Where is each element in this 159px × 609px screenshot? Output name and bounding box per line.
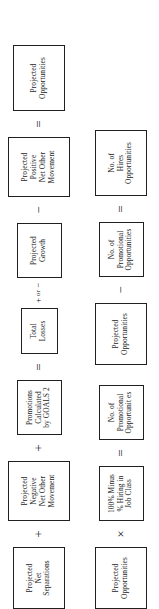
flow-row-projected-opportunities: Projected Net Separations+Projected Nega… xyxy=(2,0,76,609)
projected-positive-net-other-movement-label: Projected Positive Net Other Movement xyxy=(21,151,57,184)
operator-equals: = xyxy=(24,111,54,137)
projected-positive-net-other-movement: Projected Positive Net Other Movement xyxy=(8,137,70,197)
projected-growth: Projected Growth xyxy=(17,223,62,278)
percent-minus-hiring-in-job-class-label: 100% Minus % Hiring in Job Class xyxy=(108,474,135,513)
operator-equals: = xyxy=(106,440,136,466)
projected-growth-label: Projected Growth xyxy=(30,236,48,265)
promotions-calculated-by-goals-2-label: Promotions Calculated by GOALS 2 xyxy=(26,387,53,427)
operator-minus: − xyxy=(24,197,54,223)
projected-net-separations: Projected Net Separations xyxy=(13,547,65,609)
operator-or-label: or xyxy=(35,290,42,296)
operator-multiply: × xyxy=(106,521,136,547)
projected-negative-net-other-movement-label: Projected Negative Net Other Movement xyxy=(21,475,57,508)
flow-diagram: Projected Net Separations+Projected Nega… xyxy=(0,0,159,609)
projected-opportunities-result-label: Projected Opportunities xyxy=(30,57,48,99)
operator-equals: = xyxy=(24,354,54,380)
no-of-promotional-opportunities-result: No. of Promotional Opportunit es xyxy=(99,385,144,440)
projected-opportunities-second-label: Projected Opportunities xyxy=(112,313,130,355)
projected-opportunities-input-label: Projected Opportunities xyxy=(112,557,130,599)
total-losses: Total Losses xyxy=(21,308,58,354)
operator-plus: + xyxy=(24,521,54,547)
no-of-promotional-opportunities-input-label: No. of Promotional Opportunities xyxy=(108,229,135,271)
percent-minus-hiring-in-job-class: 100% Minus % Hiring in Job Class xyxy=(99,466,144,521)
promotions-calculated-by-goals-2: Promotions Calculated by GOALS 2 xyxy=(17,380,62,435)
row-gap xyxy=(121,365,122,385)
operator-minus: − xyxy=(106,277,136,303)
no-of-hires-opportunities-result-label: No. of Hires Opportunities xyxy=(108,142,135,184)
no-of-hires-opportunities-result: No. of Hires Opportunities xyxy=(95,130,147,196)
projected-opportunities-second: Projected Opportunities xyxy=(95,303,147,365)
operator-equals: = xyxy=(106,196,136,222)
flow-row-hires-opportunities: Projected Opportunities×100% Minus % Hir… xyxy=(84,0,158,609)
projected-negative-net-other-movement: Projected Negative Net Other Movement xyxy=(8,461,70,521)
projected-opportunities-result: Projected Opportunities xyxy=(13,45,65,111)
operator-plus-glyph: + xyxy=(34,298,43,303)
operator-plus: + xyxy=(24,435,54,461)
operator-plus-or-minus: +or− xyxy=(24,278,54,308)
total-losses-label: Total Losses xyxy=(30,321,48,342)
operator-minus-glyph: − xyxy=(34,283,43,288)
projected-opportunities-input: Projected Opportunities xyxy=(95,547,147,609)
no-of-promotional-opportunities-result-label: No. of Promotional Opportunit es xyxy=(108,392,135,434)
projected-net-separations-label: Projected Net Separations xyxy=(26,560,53,596)
no-of-promotional-opportunities-input: No. of Promotional Opportunities xyxy=(99,222,144,277)
